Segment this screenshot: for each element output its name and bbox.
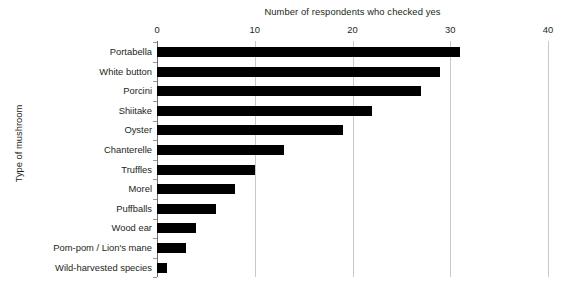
y-tick [153,160,157,161]
y-tick [153,258,157,259]
bar [157,204,216,214]
y-tick [153,199,157,200]
category-label: Wild-harvested species [0,263,152,273]
bar [157,125,343,135]
x-tick-label-40: 40 [528,24,568,35]
plot-area [157,41,548,277]
x-axis-title: Number of respondents who checked yes [157,6,548,17]
category-label: Chanterelle [0,145,152,155]
bar [157,145,284,155]
x-tick-label-30: 30 [430,24,470,35]
x-tick-label-0: 0 [137,24,177,35]
bar [157,106,372,116]
gridline-40 [548,41,549,277]
bar [157,67,440,77]
y-tick [153,42,157,43]
category-label: Shiitake [0,106,152,116]
bar [157,184,235,194]
bar [157,263,167,273]
category-label: Wood ear [0,223,152,233]
category-label: Truffles [0,165,152,175]
y-tick [153,238,157,239]
category-label: Puffballs [0,204,152,214]
category-label: Morel [0,184,152,194]
category-label: Porcini [0,86,152,96]
bar [157,165,255,175]
y-tick [153,62,157,63]
bar [157,47,460,57]
category-label: Portabella [0,47,152,57]
y-tick [153,179,157,180]
y-tick [153,277,157,278]
bar [157,223,196,233]
category-label: Oyster [0,125,152,135]
bar-chart: Number of respondents who checked yes Ty… [0,0,577,297]
y-tick [153,219,157,220]
y-tick [153,101,157,102]
x-tick-label-20: 20 [333,24,373,35]
category-label: Pom-pom / Lion's mane [0,243,152,253]
gridline-30 [450,41,451,277]
y-tick [153,121,157,122]
bar [157,86,421,96]
x-tick-label-10: 10 [235,24,275,35]
category-label: White button [0,67,152,77]
y-tick [153,140,157,141]
bar [157,243,186,253]
y-tick [153,81,157,82]
